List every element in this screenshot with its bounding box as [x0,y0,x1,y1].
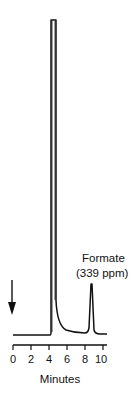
x-tick-label: 6 [64,353,70,365]
chromatogram-plot: Formate (339 ppm) 0 2 4 6 8 10 Minutes [0,0,136,404]
x-tick-label: 0 [10,353,16,365]
peak-label-concentration: (339 ppm) [76,267,129,279]
chromatogram-trace [13,20,107,335]
x-tick-label: 8 [82,353,88,365]
peak-label-name: Formate [82,252,125,264]
x-tick-label: 2 [28,353,34,365]
x-tick-label: 4 [46,353,52,365]
x-axis-title: Minutes [40,373,81,385]
injection-arrow-icon [8,280,16,315]
x-axis [13,345,107,350]
x-tick-label: 10 [95,353,107,365]
